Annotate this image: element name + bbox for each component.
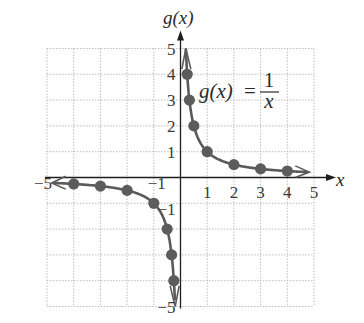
- y-tick-label: −5: [157, 298, 175, 317]
- y-tick-label: 5: [167, 40, 176, 59]
- reciprocal-function-graph: −5−11234554321−1−5 x g(x) g(x) = 1 x: [0, 0, 364, 323]
- y-tick-label: 1: [167, 143, 176, 162]
- data-point: [255, 163, 266, 174]
- x-axis-arrow-icon: [326, 174, 336, 181]
- equals-sign: =: [244, 79, 256, 103]
- data-point: [168, 275, 179, 286]
- data-point: [184, 95, 195, 106]
- x-tick-label: −5: [34, 174, 52, 193]
- data-point: [202, 146, 213, 157]
- data-point: [166, 249, 177, 260]
- data-point: [182, 69, 193, 80]
- x-tick-label: 3: [256, 183, 265, 202]
- x-tick-label: 5: [310, 183, 319, 202]
- y-axis-arrow-icon: [177, 31, 184, 41]
- y-tick-label: 3: [167, 91, 176, 110]
- y-tick-label: 4: [167, 65, 176, 84]
- data-point: [122, 185, 133, 196]
- y-tick-label: 2: [167, 117, 176, 136]
- svg-text:g(x) =: g(x) =: [199, 79, 256, 103]
- x-axis-label: x: [335, 169, 345, 190]
- x-tick-label: −1: [148, 174, 166, 193]
- data-point: [162, 224, 173, 235]
- data-point: [68, 178, 79, 189]
- y-axis-label: g(x): [163, 7, 194, 29]
- data-point: [228, 159, 239, 170]
- fraction-denominator: x: [263, 89, 274, 113]
- data-point: [95, 180, 106, 191]
- x-tick-label: 2: [230, 183, 239, 202]
- y-tick-label: −1: [157, 200, 175, 219]
- data-point: [282, 165, 293, 176]
- function-lhs: g(x): [199, 79, 233, 103]
- x-tick-label: 4: [283, 183, 292, 202]
- data-point: [188, 120, 199, 131]
- x-tick-label: 1: [203, 183, 212, 202]
